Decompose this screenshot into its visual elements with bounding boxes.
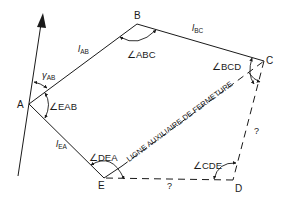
angle-bcd-label: ∠BCD [212, 61, 241, 72]
vertex-a-label: A [17, 99, 24, 110]
angle-eab-label: ∠EAB [49, 101, 77, 112]
side-ab-label: lAB [78, 43, 89, 55]
side-ab [29, 24, 137, 104]
azimuth-gamma-ab-label: γAB [42, 69, 55, 81]
side-de-unknown: ? [167, 181, 172, 191]
auxiliary-line-label: LIGNE AUXILIAIRE DE FERMETURE [125, 79, 235, 163]
traverse-diagram: A B C D E lAB lBC lEA γAB ∠ABC ∠BCD ∠CDE… [0, 0, 288, 199]
vertex-e-label: E [98, 180, 105, 191]
side-bc-label: lBC [192, 22, 203, 34]
angle-arc-gamma-ab [34, 82, 47, 88]
side-cd [233, 61, 264, 180]
angle-cde-label: ∠CDE [193, 160, 222, 171]
vertex-c-label: C [266, 55, 273, 66]
side-ea [29, 104, 104, 178]
angle-arc-eab [45, 93, 49, 118]
angle-abc-label: ∠ABC [127, 49, 156, 60]
angle-arc-abc [120, 30, 156, 41]
angle-dea-label: ∠DEA [89, 152, 118, 163]
side-cd-unknown: ? [254, 126, 259, 136]
vertex-d-label: D [235, 183, 242, 194]
vertex-b-label: B [134, 10, 141, 21]
